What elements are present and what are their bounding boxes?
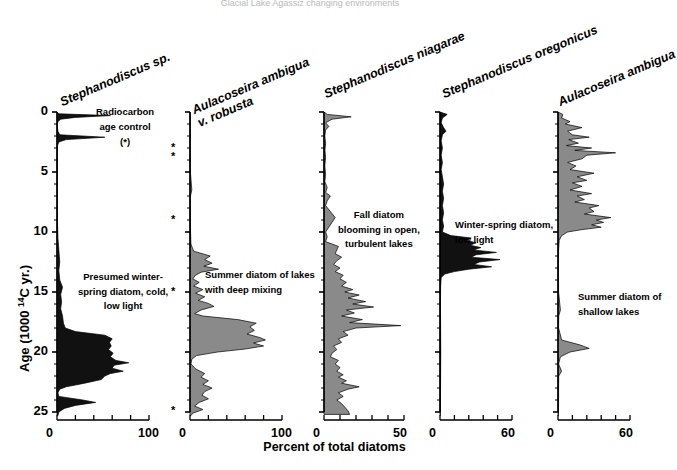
- x-axis-tick-label: 0: [429, 426, 436, 440]
- panel-annotation-line: Summer diatom of lakes: [205, 268, 315, 283]
- panel-annotation-line: with deep mixing: [205, 283, 315, 298]
- panel-annotation-line: Winter-spring diatom,: [455, 218, 553, 233]
- y-axis-tick-label: 5: [24, 163, 48, 178]
- x-axis-tick-label: 60: [501, 426, 515, 440]
- y-axis-tick-label: 10: [24, 223, 48, 238]
- radiocarbon-marker: *: [171, 286, 175, 297]
- x-axis-tick-label: 100: [138, 426, 159, 440]
- panel-annotation-line: low light: [78, 299, 168, 314]
- y-axis-tick-label: 25: [24, 403, 48, 418]
- panel-annotation-line: blooming in open,: [338, 223, 420, 238]
- panel-annotation-line: low light: [455, 233, 553, 248]
- abundance-curve: [190, 112, 265, 416]
- panel-annotation-line: Presumed winter-: [78, 270, 168, 285]
- abundance-curve: [57, 112, 129, 416]
- x-axis-tick-label: 0: [46, 426, 53, 440]
- abundance-curve: [440, 112, 500, 416]
- x-axis-tick-label: 0: [179, 426, 186, 440]
- radiocarbon-marker: *: [171, 214, 175, 225]
- panel-annotation: Summer diatom ofshallow lakes: [578, 290, 661, 319]
- panel-annotation: Summer diatom of lakeswith deep mixing: [205, 268, 315, 297]
- panel-annotation: Fall diatomblooming in open,turbulent la…: [338, 208, 420, 252]
- panel-annotation-line: Fall diatom: [338, 208, 420, 223]
- x-axis-tick-label: 0: [547, 426, 554, 440]
- abundance-curve: [324, 112, 401, 414]
- radiocarbon-marker: *: [171, 405, 175, 416]
- panel-annotation-line: spring diatom, cold,: [78, 285, 168, 300]
- x-axis-tick-label: 50: [393, 426, 407, 440]
- x-axis-tick-label: 60: [619, 426, 633, 440]
- y-axis-tick-label: 0: [24, 103, 48, 118]
- abundance-curve: [558, 112, 616, 416]
- panel-annotation-line: turbulent lakes: [338, 237, 420, 252]
- x-axis-tick-label: 0: [313, 426, 320, 440]
- panel-annotation: Presumed winter-spring diatom, cold,low …: [78, 270, 168, 314]
- y-axis-tick-label: 15: [24, 283, 48, 298]
- x-axis-tick-label: 100: [271, 426, 292, 440]
- panel-annotation-line: Summer diatom of: [578, 290, 661, 305]
- panel-annotation-line: shallow lakes: [578, 305, 661, 320]
- panel-annotation: Winter-spring diatom,low light: [455, 218, 553, 247]
- y-axis-tick-label: 20: [24, 343, 48, 358]
- radiocarbon-marker: *: [171, 151, 175, 162]
